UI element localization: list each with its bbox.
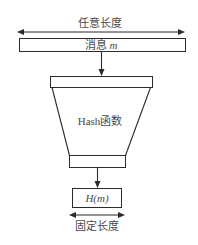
message-label: 消息 m [85, 38, 118, 51]
hash-output-label: H(m) [84, 192, 109, 205]
down-arrow-icon [95, 168, 101, 189]
message-label-text: 消息 [85, 38, 110, 51]
fixed-length-label: 固定长度 [75, 219, 119, 232]
hash-output-box: H(m) [73, 189, 122, 208]
hash-function-label: Hash函数 [78, 115, 123, 127]
down-arrow-icon [99, 52, 105, 77]
message-box: 消息 m [20, 38, 186, 52]
arbitrary-length-arrow-icon [17, 29, 185, 35]
hash-function-diagram: 任意长度 消息 m Hash函数 H(m) 固定长度 [0, 0, 198, 245]
message-variable: m [109, 39, 117, 51]
arbitrary-length-label: 任意长度 [78, 16, 122, 29]
hash-function-funnel: Hash函数 [51, 77, 153, 168]
fixed-length-arrow-icon [69, 212, 125, 218]
